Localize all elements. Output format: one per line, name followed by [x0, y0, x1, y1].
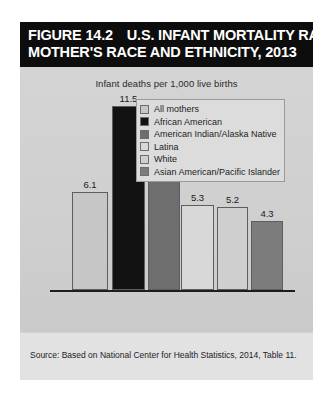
- x-axis-line: [50, 290, 295, 292]
- legend-item-label: American Indian/Alaska Native: [154, 129, 277, 139]
- source-band: Source: Based on National Center for Hea…: [20, 333, 313, 380]
- legend-item: Asian American/Pacific Islander: [140, 166, 280, 179]
- legend-item-label: African American: [154, 117, 222, 127]
- legend-item-label: Latina: [154, 142, 179, 152]
- bar-value-label: 5.2: [217, 194, 248, 205]
- legend-item: All mothers: [140, 103, 280, 116]
- legend-swatch-icon: [140, 155, 149, 164]
- legend-swatch-icon: [140, 105, 149, 114]
- figure-title-line-2: MOTHER'S RACE AND ETHNICITY, 2013: [28, 44, 305, 61]
- figure-number: FIGURE 14.2: [28, 27, 113, 44]
- legend-item: African American: [140, 116, 280, 129]
- legend-swatch-icon: [140, 142, 149, 151]
- figure-title-band: FIGURE 14.2U.S. INFANT MORTALITY RATES B…: [20, 22, 313, 67]
- bar: [251, 221, 283, 290]
- legend-item-label: White: [154, 154, 177, 164]
- figure-title-line-1: FIGURE 14.2U.S. INFANT MORTALITY RATES B…: [28, 27, 305, 44]
- figure-title-part-1: U.S. INFANT MORTALITY RATES BY: [127, 27, 333, 43]
- legend-item: White: [140, 153, 280, 166]
- bar-value-label: 6.1: [72, 179, 108, 190]
- legend-item: American Indian/Alaska Native: [140, 128, 280, 141]
- bar: [217, 207, 248, 290]
- bar: [72, 192, 108, 290]
- legend-swatch-icon: [140, 167, 149, 176]
- bar-value-label: 4.3: [251, 208, 283, 219]
- legend-swatch-icon: [140, 130, 149, 139]
- legend-item: Latina: [140, 141, 280, 154]
- figure-container: FIGURE 14.2U.S. INFANT MORTALITY RATES B…: [20, 22, 313, 380]
- chart-legend: All mothersAfrican AmericanAmerican Indi…: [136, 99, 285, 182]
- chart-area: Infant deaths per 1,000 live births 6.11…: [20, 67, 313, 332]
- legend-item-label: Asian American/Pacific Islander: [154, 167, 280, 177]
- bar-value-label: 5.3: [181, 192, 214, 203]
- bar: [181, 205, 214, 290]
- source-note: Source: Based on National Center for Hea…: [30, 350, 297, 360]
- legend-item-label: All mothers: [154, 104, 199, 114]
- legend-swatch-icon: [140, 117, 149, 126]
